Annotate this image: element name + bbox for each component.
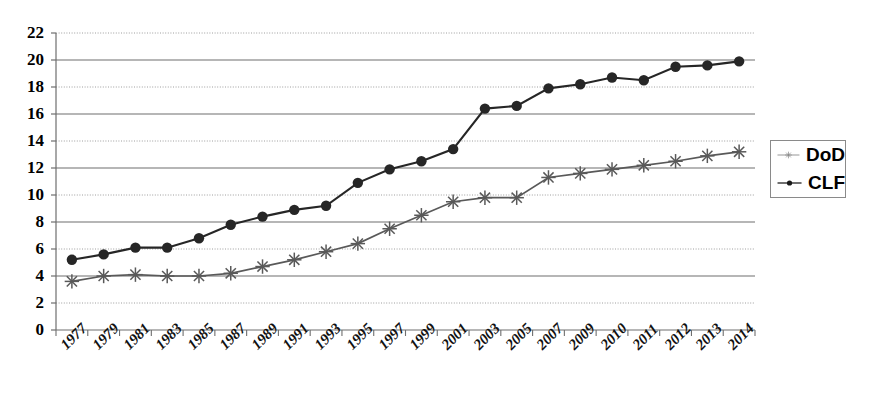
y-tick-8: 8 [10, 213, 44, 230]
y-tick-6: 6 [10, 240, 44, 257]
y-tick-18: 18 [10, 78, 44, 95]
y-tick-12: 12 [10, 159, 44, 176]
y-tick-4: 4 [10, 267, 44, 284]
legend-label-clf: CLF [808, 172, 845, 194]
legend-item-dod: DoD [771, 141, 845, 169]
y-tick-2: 2 [10, 294, 44, 311]
line-chart: 0246810121416182022 19771979198119831985… [0, 0, 882, 399]
chart-legend: DoD CLF [770, 140, 846, 198]
gridlines [56, 33, 755, 303]
y-tick-20: 20 [10, 51, 44, 68]
legend-marker-star-icon [777, 146, 800, 164]
y-tick-22: 22 [10, 24, 44, 41]
y-tick-16: 16 [10, 105, 44, 122]
y-tick-0: 0 [10, 321, 44, 338]
y-tick-14: 14 [10, 132, 44, 149]
legend-label-dod: DoD [806, 144, 845, 166]
y-tick-10: 10 [10, 186, 44, 203]
legend-item-clf: CLF [771, 169, 845, 197]
legend-marker-circle-icon [777, 174, 802, 192]
